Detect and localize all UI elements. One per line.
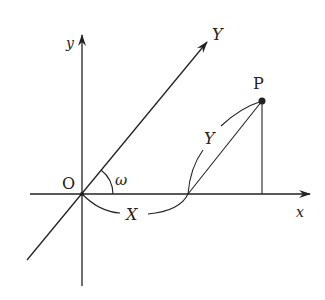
oblique-coordinates-diagram: O x y Y ω P X Y	[0, 0, 325, 300]
x-coordinate-label: X	[124, 205, 138, 224]
y-coordinate-arc-upper	[221, 101, 262, 126]
y-coordinate-arc-lower	[188, 150, 203, 194]
point-p-label: P	[253, 74, 264, 93]
point-p	[259, 98, 266, 105]
origin-label: O	[62, 174, 75, 193]
origin-point	[80, 192, 84, 196]
oblique-axis-label: Y	[212, 25, 224, 44]
x-axis-label: x	[296, 204, 304, 220]
angle-label: ω	[115, 171, 127, 189]
y-coordinate-label: Y	[204, 129, 216, 148]
angle-omega-arc	[101, 170, 113, 194]
parallel-line-to-p	[188, 101, 262, 194]
y-axis-label: y	[65, 35, 75, 51]
x-coordinate-arc-right	[148, 194, 188, 214]
x-coordinate-arc	[82, 194, 120, 213]
oblique-y-axis	[27, 42, 207, 260]
